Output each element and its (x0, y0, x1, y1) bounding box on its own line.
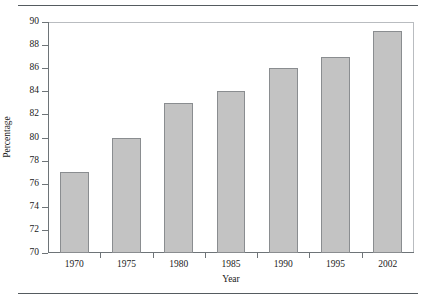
figure: 7072747678808284868890 19701975198019851… (0, 0, 433, 307)
top-horizontal-rule (18, 5, 418, 6)
x-axis-tick (153, 253, 154, 258)
y-axis-title: Percentage (3, 116, 13, 158)
y-axis-line (48, 22, 49, 253)
x-axis-tick-label: 2002 (378, 260, 397, 270)
x-axis-tick-label: 1980 (169, 260, 188, 270)
bar (60, 172, 89, 253)
y-axis-tick-label: 88 (0, 40, 39, 50)
y-axis-tick-label: 70 (0, 248, 39, 258)
x-axis-tick (362, 253, 363, 258)
x-axis-tick-label: 1995 (326, 260, 345, 270)
x-axis-tick-label: 1970 (65, 260, 84, 270)
y-axis-tick (42, 207, 48, 208)
y-axis-tick (42, 68, 48, 69)
bar (269, 68, 298, 253)
y-axis-tick (42, 184, 48, 185)
bar (321, 57, 350, 253)
x-axis-tick-label: 1985 (222, 260, 241, 270)
bar (217, 91, 246, 253)
x-axis-tick (205, 253, 206, 258)
y-axis-tick (42, 253, 48, 254)
bottom-horizontal-rule (18, 293, 418, 294)
y-axis-tick-label: 76 (0, 179, 39, 189)
x-axis-tick-label: 1975 (117, 260, 136, 270)
bar (373, 31, 402, 253)
y-axis-tick (42, 138, 48, 139)
y-axis-tick-label: 86 (0, 63, 39, 73)
x-axis-tick (257, 253, 258, 258)
x-axis-tick (309, 253, 310, 258)
y-axis-tick-label: 90 (0, 17, 39, 27)
y-axis-tick-label: 84 (0, 87, 39, 97)
y-axis-tick (42, 91, 48, 92)
y-axis-tick (42, 45, 48, 46)
x-axis-tick-label: 1990 (274, 260, 293, 270)
x-axis-tick (100, 253, 101, 258)
y-axis-tick (42, 22, 48, 23)
y-axis-tick-label: 72 (0, 225, 39, 235)
bar (164, 103, 193, 253)
y-axis-tick (42, 161, 48, 162)
bar (112, 138, 141, 254)
y-axis-tick-label: 74 (0, 202, 39, 212)
y-axis-tick (42, 230, 48, 231)
y-axis-tick (42, 114, 48, 115)
x-axis-title: Year (222, 275, 240, 285)
